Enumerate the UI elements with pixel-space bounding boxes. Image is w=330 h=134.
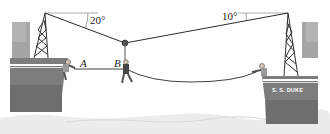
pulley xyxy=(122,40,128,46)
slack-rope xyxy=(126,69,256,82)
ship-name-label: S. S. DUKE xyxy=(272,87,303,93)
left-ship xyxy=(10,13,75,112)
point-b-label: B xyxy=(114,57,121,69)
person-right xyxy=(252,64,267,77)
right-angle-label: 10° xyxy=(222,10,237,22)
left-angle-arc xyxy=(85,13,88,28)
right-ship: S. S. DUKE xyxy=(252,13,318,124)
support-cable xyxy=(45,13,288,43)
statics-diagram: S. S. DUKE 20° 10° A B xyxy=(0,0,330,134)
left-angle-label: 20° xyxy=(90,14,105,26)
point-a-label: A xyxy=(79,57,87,69)
left-mast xyxy=(34,13,48,58)
right-mast xyxy=(284,13,298,76)
right-angle-arc xyxy=(246,13,247,20)
